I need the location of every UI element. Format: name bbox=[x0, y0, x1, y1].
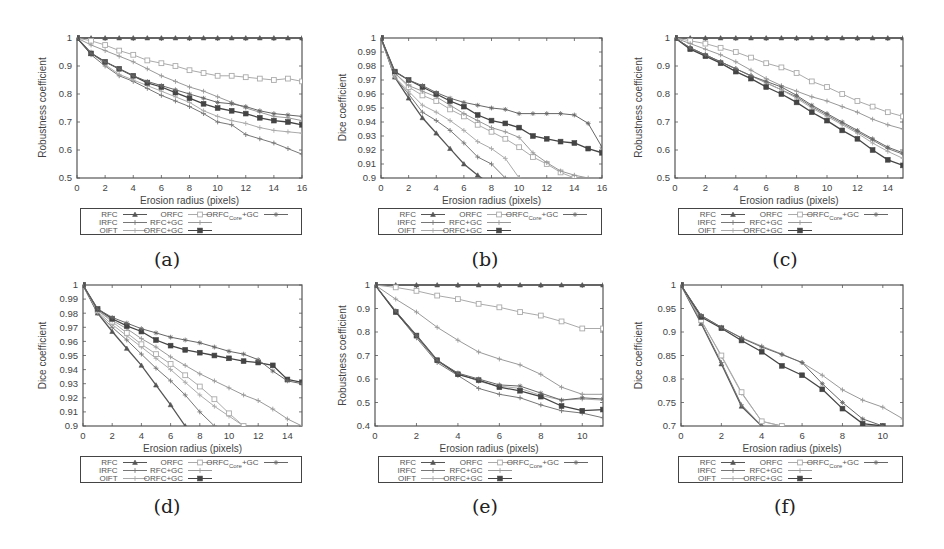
subfigure-caption: (f) bbox=[755, 495, 815, 517]
legend-label: ORFC+GC bbox=[737, 474, 783, 483]
x-tick-label: 10 bbox=[878, 430, 889, 441]
legend-label: OIFT bbox=[670, 474, 716, 483]
plot-frame bbox=[681, 285, 903, 426]
y-tick-label: 0.95 bbox=[658, 303, 677, 314]
y-tick-label: 0.8 bbox=[663, 373, 676, 384]
legend-item: ORFCCore+GC bbox=[799, 458, 889, 467]
x-tick-label: 8 bbox=[840, 430, 845, 441]
legend-label: ORFCCore+GC bbox=[799, 458, 859, 471]
y-tick-label: 0.7 bbox=[663, 420, 676, 431]
y-tick-label: 0.75 bbox=[658, 397, 677, 408]
y-tick-label: 1 bbox=[671, 279, 676, 290]
x-axis-label: Erosion radius (pixels) bbox=[722, 443, 862, 454]
series-rfc-gc bbox=[679, 283, 906, 422]
legend-line-sample bbox=[863, 458, 889, 467]
chart-legend: RFCIRFCOIFTORFCRFC+GCORFC+GCORFCCore+GC bbox=[678, 456, 903, 483]
x-tick-label: 6 bbox=[799, 430, 804, 441]
legend-item: OIFT bbox=[670, 474, 746, 483]
y-axis-label: Dice coefficient bbox=[633, 285, 644, 425]
legend-line-sample bbox=[787, 474, 813, 483]
y-tick-label: 0.85 bbox=[658, 350, 677, 361]
y-tick-label: 0.9 bbox=[663, 326, 676, 337]
x-tick-label: 4 bbox=[759, 430, 764, 441]
series-orfccore-gc bbox=[679, 283, 886, 429]
x-tick-label: 0 bbox=[678, 430, 683, 441]
x-tick-label: 2 bbox=[719, 430, 724, 441]
legend-item: ORFC+GC bbox=[737, 474, 813, 483]
